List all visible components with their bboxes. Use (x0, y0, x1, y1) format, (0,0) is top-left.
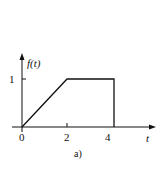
y-tick-label-1: 1 (9, 73, 15, 85)
x-axis-arrow-icon (149, 125, 156, 130)
y-axis-arrow-icon (20, 53, 25, 60)
x-tick-label-0: 0 (19, 131, 25, 143)
function-line (22, 79, 114, 127)
x-tick-label-4: 4 (105, 131, 111, 143)
figure-caption: a) (74, 148, 82, 160)
x-tick-label-2: 2 (64, 131, 70, 143)
x-axis-label: t (146, 132, 150, 144)
chart: f(t) 1 0 2 4 t a) (0, 0, 166, 177)
y-axis-label: f(t) (27, 57, 41, 70)
